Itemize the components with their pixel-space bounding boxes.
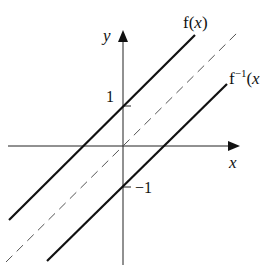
x-axis-arrow-icon bbox=[228, 141, 240, 151]
curve-f-inverse-label: f−1(x bbox=[229, 67, 260, 88]
y-axis-arrow-icon bbox=[118, 30, 128, 42]
curve-f bbox=[9, 35, 195, 220]
curve-f-inverse bbox=[47, 84, 227, 261]
graph-canvas: y x 1 −1 f(x) f−1(x bbox=[0, 0, 264, 268]
curve-f-label: f(x) bbox=[183, 13, 208, 32]
y-axis-label: y bbox=[101, 26, 111, 45]
tick-label-1: 1 bbox=[106, 88, 114, 105]
tick-label-neg1: −1 bbox=[135, 179, 152, 196]
identity-line bbox=[6, 32, 238, 262]
x-axis-label: x bbox=[228, 153, 237, 172]
